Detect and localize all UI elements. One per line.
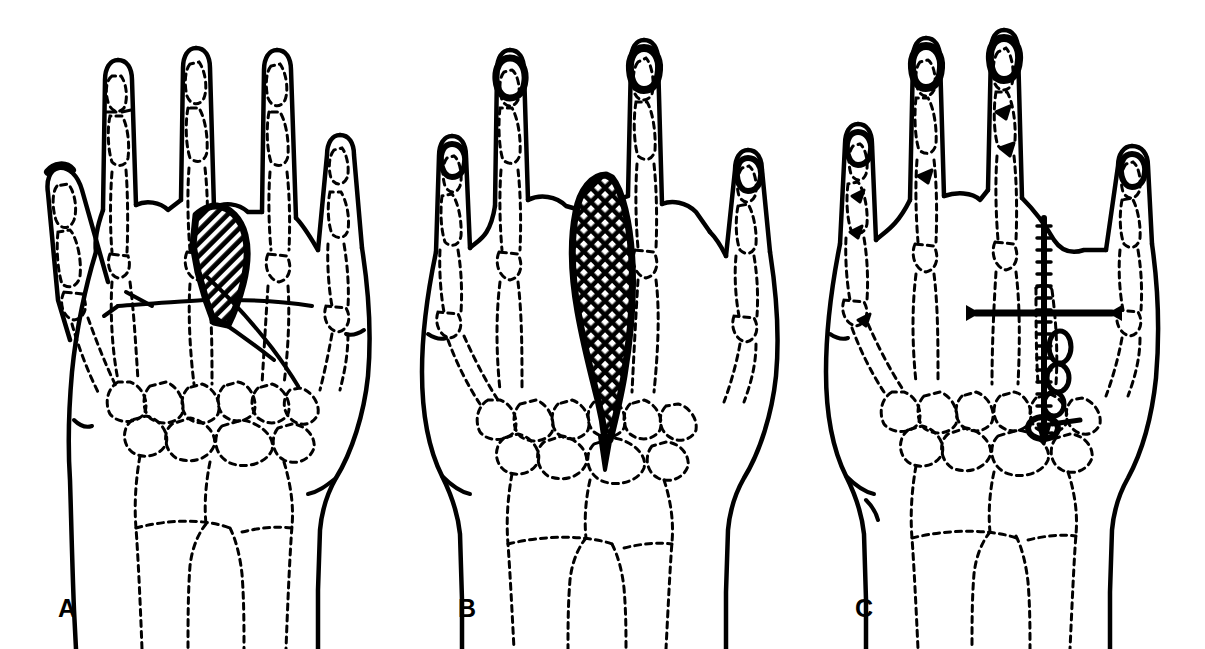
- panel-label-a: A: [58, 596, 76, 621]
- panel-a: A: [0, 0, 402, 649]
- panel-label-b: B: [458, 596, 476, 621]
- fingernails-b: [441, 48, 761, 191]
- skeleton-dashed-a: [53, 62, 349, 649]
- panel-b-illustration: [400, 0, 802, 649]
- panel-b: B: [400, 0, 802, 649]
- resection-line-distal: [232, 300, 312, 306]
- resection-line-proximal: [118, 300, 204, 306]
- panel-a-illustration: [0, 0, 402, 649]
- skeleton-dashed-c: [843, 48, 1142, 649]
- figure-root: A: [0, 0, 1205, 649]
- panel-c-illustration: [800, 0, 1202, 649]
- panel-c: C: [800, 0, 1202, 649]
- panel-label-c: C: [855, 596, 873, 621]
- hand-outline-a: [47, 48, 369, 649]
